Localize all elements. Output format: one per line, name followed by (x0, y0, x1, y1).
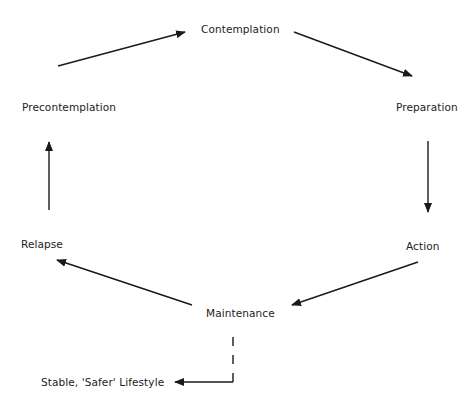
stage-maintenance: Maintenance (206, 307, 275, 319)
exit-stable-lifestyle: Stable, 'Safer' Lifestyle (41, 376, 164, 388)
stage-precontemplation: Precontemplation (22, 101, 116, 113)
stage-preparation: Preparation (396, 101, 458, 113)
arrows-layer (0, 0, 475, 411)
arrow-maintenance-to-relapse (57, 260, 192, 305)
arrow-contemplation-to-preparation (294, 32, 412, 76)
stage-action: Action (406, 240, 439, 252)
arrow-precontemplation-to-contemplation (58, 32, 185, 66)
stage-relapse: Relapse (21, 238, 63, 250)
stage-contemplation: Contemplation (201, 23, 280, 35)
arrow-action-to-maintenance (292, 262, 418, 305)
